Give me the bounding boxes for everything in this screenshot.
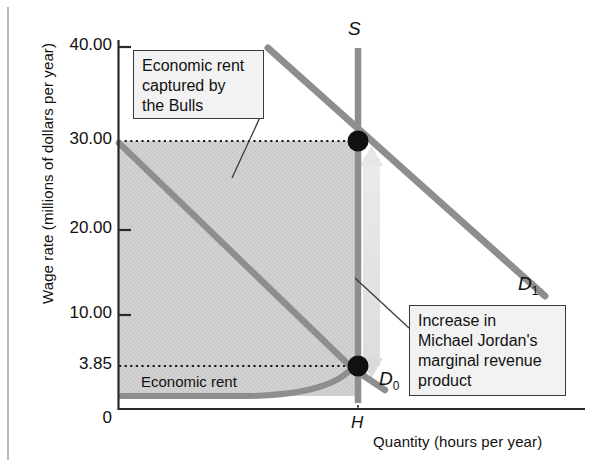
economics-chart-figure: Wage rate (millions of dollars per year)… [0, 0, 593, 460]
demand0-letter: D [379, 368, 393, 389]
callout-economic-rent-captured: Economic rent captured by the Bulls [133, 50, 264, 119]
y-axis-title: Wage rate (millions of dollars per year) [39, 43, 56, 304]
y-tick-label-385: 3.85 [30, 354, 112, 374]
y-tick-label-40: 40.00 [30, 35, 112, 55]
equilibrium-new-marker [348, 131, 369, 152]
callout-mrp-increase: Increase in Michael Jordan's marginal re… [409, 305, 566, 396]
top-crop-trim [0, 0, 593, 7]
x-axis-title: Quantity (hours per year) [373, 433, 542, 450]
supply-curve-label: S [348, 18, 361, 40]
demand1-letter: D [518, 273, 532, 294]
demand1-curve-label: D1 [518, 273, 538, 298]
economic-rent-inline-label: Economic rent [141, 373, 237, 390]
y-tick-label-0: 0 [30, 408, 112, 428]
y-axis-title-wrapper: Wage rate (millions of dollars per year) [39, 84, 57, 304]
page-edge-scan-artifact [7, 0, 9, 460]
demand0-curve-label: D0 [379, 368, 399, 393]
mrp-increase-arrow [360, 146, 383, 378]
y-tick-label-20: 20.00 [30, 218, 112, 238]
demand1-subscript: 1 [532, 284, 539, 298]
y-tick-label-30: 30.00 [30, 129, 112, 149]
demand0-subscript: 0 [393, 379, 400, 393]
y-tick-label-10: 10.00 [30, 303, 112, 323]
equilibrium-original-marker [348, 356, 369, 377]
x-tick-label-h: H [351, 413, 363, 433]
